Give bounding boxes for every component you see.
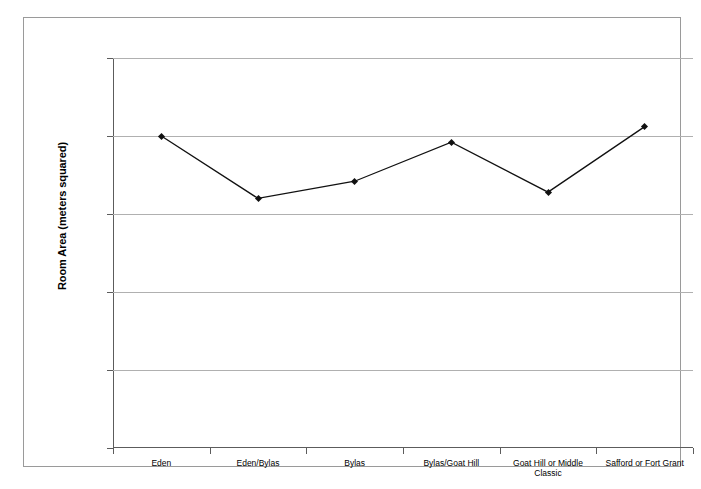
x-axis-category-label: Goat Hill or Middle Classic xyxy=(500,458,597,478)
data-series-line xyxy=(113,58,693,448)
x-axis-tick xyxy=(596,448,597,454)
x-axis-category-label: Eden/Bylas xyxy=(210,458,307,468)
x-axis-category-label: Eden xyxy=(113,458,210,468)
series-polyline xyxy=(161,127,644,199)
x-axis-category-label: Safford or Fort Grant xyxy=(596,458,693,468)
y-axis-title: Room Area (meters squared) xyxy=(56,116,68,316)
plot-area: 0510152025 EdenEden/BylasBylasBylas/Goat… xyxy=(113,58,693,448)
x-axis-tick xyxy=(210,448,211,454)
x-axis-category-label: Bylas/Goat Hill xyxy=(403,458,500,468)
x-axis-tick xyxy=(403,448,404,454)
chart-outer-frame: Room Area (meters squared) 0510152025 Ed… xyxy=(23,17,681,467)
x-axis-tick xyxy=(306,448,307,454)
x-axis-category-label: Bylas xyxy=(306,458,403,468)
x-axis-tick xyxy=(500,448,501,454)
x-axis-tick xyxy=(113,448,114,454)
line-chart-figure: Room Area (meters squared) 0510152025 Ed… xyxy=(0,0,701,489)
x-axis-tick xyxy=(693,448,694,454)
